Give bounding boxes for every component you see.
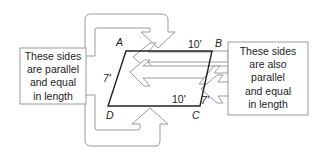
left-callout-line: and equal xyxy=(20,76,86,89)
left-callout-line: These sides xyxy=(20,50,86,63)
vertex-d-label: D xyxy=(106,109,114,121)
left-callout-line: are parallel xyxy=(20,63,86,76)
vertex-a-label: A xyxy=(116,36,123,48)
side-dc-length: 10' xyxy=(172,93,186,105)
side-ab-length: 10' xyxy=(188,38,202,50)
right-callout-line: and equal xyxy=(228,85,308,98)
outer-bottom-arrow xyxy=(85,95,168,146)
right-callout-line: parallel xyxy=(228,71,308,84)
right-callout-line: in length xyxy=(228,98,308,111)
side-bc-length: 7' xyxy=(201,94,209,106)
left-callout-line: in length xyxy=(20,90,86,103)
outer-top-arrow xyxy=(85,14,175,56)
vertex-b-label: B xyxy=(215,37,222,49)
right-callout-text: These sides are also parallel and equal … xyxy=(228,45,308,111)
vertex-c-label: C xyxy=(192,109,200,121)
right-callout-line: These sides xyxy=(228,45,308,58)
right-callout-line: are also xyxy=(228,58,308,71)
side-ad-length: 7' xyxy=(103,72,111,84)
left-callout-text: These sides are parallel and equal in le… xyxy=(20,50,86,103)
